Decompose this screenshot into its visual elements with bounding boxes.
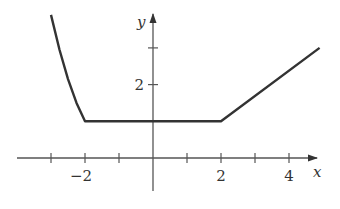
function-curve (51, 15, 320, 121)
x-tick-label: 2 (216, 167, 226, 185)
x-tick-labels: −224 (70, 167, 294, 185)
y-tick-labels: 2 (134, 76, 144, 94)
x-tick-label: −2 (70, 167, 92, 185)
y-axis-label: y (136, 13, 146, 31)
y-tick-label: 2 (134, 76, 144, 94)
x-axis-label: x (313, 163, 322, 181)
x-tick-label: 4 (284, 167, 294, 185)
function-graph: −224 2 x y (0, 0, 340, 209)
